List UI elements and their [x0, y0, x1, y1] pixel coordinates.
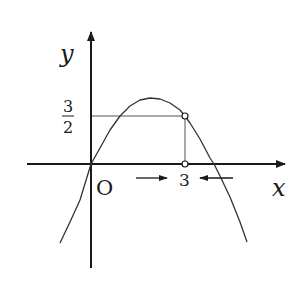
y-tick-numerator: 3 — [63, 97, 73, 116]
x-tick-label-3: 3 — [179, 170, 190, 190]
graph-canvas: y x O 3 3 2 — [0, 0, 303, 292]
origin-label: O — [96, 176, 113, 200]
y-tick-denominator: 2 — [63, 118, 73, 137]
y-axis-label: y — [59, 40, 74, 68]
parabola-curve — [60, 98, 247, 243]
point-3-three-halves — [182, 113, 188, 119]
x-axis-label: x — [272, 174, 286, 202]
point-3-on-x-axis — [182, 161, 188, 167]
